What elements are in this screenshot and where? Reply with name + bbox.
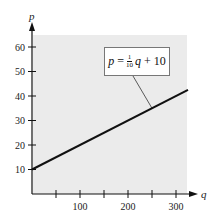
eq-lhs: p [108,54,114,69]
y-tick-label: 60 [15,42,25,53]
x-axis-arrow-icon [189,191,198,197]
chart-svg: 102030405060 100200300 p q [0,0,211,223]
y-tick-label: 30 [15,115,25,126]
x-tick-label: 300 [169,201,184,212]
eq-equals: = [117,54,124,69]
eq-var: q [135,54,141,69]
y-axis-label: p [28,10,35,22]
y-tick-label: 40 [15,91,25,102]
y-tick-label: 20 [15,140,25,151]
y-ticks: 102030405060 [15,42,36,176]
y-axis-arrow-icon [29,22,35,31]
eq-frac-den: 10 [126,62,133,69]
x-tick-label: 200 [121,201,136,212]
x-axis-label: q [201,188,207,200]
eq-fraction: 1 10 [126,54,133,69]
y-tick-label: 10 [15,164,25,175]
x-tick-label: 100 [73,201,88,212]
eq-rest: + 10 [144,54,166,69]
equation-label: p = 1 10 q + 10 [104,47,170,76]
y-tick-label: 50 [15,66,25,77]
